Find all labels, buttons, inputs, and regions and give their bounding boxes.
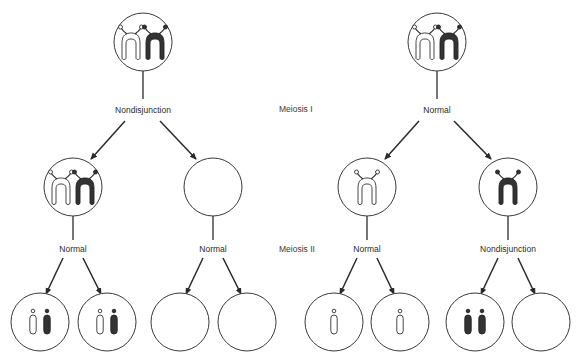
left-meiosis-1-daughter-cell bbox=[184, 158, 242, 216]
cell-membrane bbox=[338, 158, 396, 216]
kinetochore-knob bbox=[355, 170, 359, 174]
cell-membrane bbox=[512, 293, 570, 351]
right-meiosis-1-daughter-cell bbox=[479, 158, 537, 216]
left-gamete-cell bbox=[11, 293, 69, 351]
left-meiosis-1-arrow-a bbox=[91, 121, 125, 159]
kinetochore-knob bbox=[73, 170, 77, 174]
right-meiosis-1-event-label: Normal bbox=[423, 105, 451, 115]
chromatid-body bbox=[97, 315, 103, 334]
right-gamete-cell bbox=[305, 293, 363, 351]
chromatid-knob bbox=[480, 309, 484, 313]
kinetochore-knob bbox=[143, 25, 147, 29]
kinetochore-knob bbox=[94, 170, 98, 174]
left-meiosis-1-event-label: Nondisjunction bbox=[115, 105, 171, 115]
cell-membrane bbox=[479, 158, 537, 216]
left-meiosis-2-arrow bbox=[186, 258, 203, 294]
chromatid-knob bbox=[398, 309, 402, 313]
cell-membrane bbox=[184, 158, 242, 216]
chromatid-knob bbox=[31, 309, 35, 313]
chromatid-body bbox=[479, 315, 485, 334]
chromatid-knob bbox=[332, 309, 336, 313]
cell-membrane bbox=[11, 293, 69, 351]
right-meiosis-1-arrow-a bbox=[385, 121, 419, 159]
left-parent-cell bbox=[114, 13, 172, 71]
left-meiosis-2-event-label-a: Normal bbox=[59, 244, 87, 254]
right-gamete-cell bbox=[371, 293, 429, 351]
chromatid-body bbox=[465, 315, 471, 334]
kinetochore-knob bbox=[164, 25, 168, 29]
kinetochore-knob bbox=[437, 25, 441, 29]
right-meiosis-1-daughter-cell bbox=[338, 158, 396, 216]
cell-membrane bbox=[78, 293, 136, 351]
chromatid-knob bbox=[98, 309, 102, 313]
cell-membrane bbox=[151, 293, 209, 351]
left-gamete-cell bbox=[151, 293, 209, 351]
left-meiosis-2-arrow bbox=[223, 258, 241, 294]
cell-membrane bbox=[218, 293, 276, 351]
right-meiosis-2-event-label-a: Normal bbox=[353, 244, 381, 254]
left-meiosis-2-event-label-b: Normal bbox=[199, 244, 227, 254]
diagram-canvas: Meiosis I Meiosis II Nondisjunction Norm… bbox=[0, 0, 584, 363]
chromatid-body bbox=[44, 315, 50, 334]
right-parent-cell bbox=[408, 13, 466, 71]
left-gamete-cell bbox=[78, 293, 136, 351]
chromatid-knob bbox=[112, 309, 116, 313]
chromatid-body bbox=[30, 315, 36, 334]
chromatid-body bbox=[331, 315, 337, 334]
kinetochore-knob bbox=[458, 25, 462, 29]
left-meiosis-1-arrow-b bbox=[160, 121, 196, 159]
chromatid-knob bbox=[466, 309, 470, 313]
cell-membrane bbox=[446, 293, 504, 351]
right-meiosis-2-arrow bbox=[481, 258, 498, 294]
right-meiosis-2-arrow bbox=[518, 258, 535, 294]
kinetochore-knob bbox=[413, 25, 417, 29]
kinetochore-knob bbox=[496, 170, 500, 174]
right-gamete-cell bbox=[446, 293, 504, 351]
chromatid-body bbox=[397, 315, 403, 334]
right-meiosis-2-arrow bbox=[340, 258, 357, 294]
right-meiosis-1-arrow-b bbox=[454, 121, 491, 159]
meiosis-nondisjunction-diagram: Meiosis I Meiosis II Nondisjunction Norm… bbox=[0, 0, 584, 363]
left-meiosis-2-arrow bbox=[46, 258, 63, 294]
kinetochore-knob bbox=[376, 170, 380, 174]
kinetochore-knob bbox=[517, 170, 521, 174]
right-gamete-cell bbox=[512, 293, 570, 351]
kinetochore-knob bbox=[119, 25, 123, 29]
right-meiosis-2-event-label-b: Nondisjunction bbox=[480, 244, 536, 254]
left-gamete-cell bbox=[218, 293, 276, 351]
chromatid-knob bbox=[45, 309, 49, 313]
kinetochore-knob bbox=[49, 170, 53, 174]
meiosis-1-label: Meiosis I bbox=[279, 104, 313, 114]
right-meiosis-2-arrow bbox=[377, 258, 394, 294]
left-meiosis-1-daughter-cell bbox=[44, 158, 102, 216]
left-meiosis-2-arrow bbox=[83, 258, 101, 294]
meiosis-2-label: Meiosis II bbox=[279, 244, 315, 254]
chromatid-body bbox=[111, 315, 117, 334]
